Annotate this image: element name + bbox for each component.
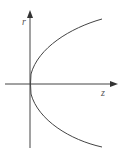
diagram-canvas xyxy=(0,0,120,156)
z-axis-label: z xyxy=(101,88,105,98)
parabola-diagram: r z xyxy=(0,0,120,156)
r-axis-label: r xyxy=(22,17,26,27)
z-axis-arrowhead-icon xyxy=(110,81,118,87)
parabola-curve xyxy=(31,19,103,147)
r-axis-arrowhead-icon xyxy=(27,10,33,18)
